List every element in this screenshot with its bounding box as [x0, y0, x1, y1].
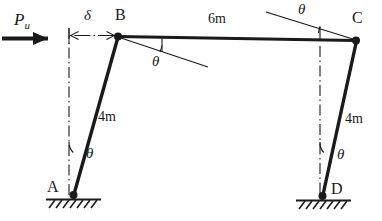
- theta-label-b: θ: [152, 54, 159, 69]
- load-label-p: P: [14, 10, 24, 29]
- column-dc-length-label: 4m: [345, 112, 363, 126]
- angle-arc-b: [160, 38, 162, 52]
- joint-dot-d: [319, 192, 327, 200]
- theta-label-c: θ: [298, 2, 305, 17]
- load-label-subscript: u: [24, 19, 30, 31]
- column-ab-length-label: 4m: [98, 110, 116, 124]
- rotation-line-b: [118, 37, 208, 67]
- node-label-c: C: [352, 10, 363, 26]
- joint-dot-b: [114, 33, 122, 41]
- rotation-line-c: [266, 12, 356, 40]
- joint-dot-c: [352, 37, 360, 45]
- support-d: [296, 201, 351, 210]
- delta-dimension-line: [69, 28, 114, 44]
- theta-label-column-dc: θ: [337, 147, 344, 162]
- load-label-pu: Pu: [14, 11, 30, 31]
- joint-dot-a: [70, 191, 78, 199]
- figure-canvas: Pu δ B C A D 6m 4m 4m θ θ θ θ: [0, 0, 382, 221]
- support-a: [46, 200, 101, 209]
- delta-label: δ: [84, 8, 91, 23]
- angle-arc-column-ab: [69, 142, 73, 153]
- node-label-b: B: [115, 7, 126, 23]
- node-label-a: A: [47, 179, 59, 195]
- node-label-d: D: [331, 181, 343, 197]
- theta-label-column-ab: θ: [86, 146, 93, 161]
- beam-length-label: 6m: [208, 12, 226, 26]
